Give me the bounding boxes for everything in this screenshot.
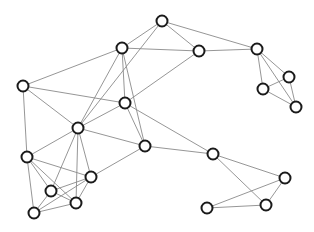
node-S (261, 200, 272, 211)
node-O (46, 186, 57, 197)
edge-N-Q (34, 177, 91, 213)
edge-A-C (162, 21, 199, 51)
edge-A-J (78, 21, 162, 128)
node-I (120, 98, 131, 109)
edge-J-K (78, 128, 145, 146)
edge-C-I (125, 51, 199, 103)
edge-C-D (199, 49, 257, 51)
node-T (202, 203, 213, 214)
node-K (140, 141, 151, 152)
node-N (86, 172, 97, 183)
edge-L-N (27, 157, 91, 177)
network-graph (0, 0, 314, 232)
node-Q (29, 208, 40, 219)
edge-K-M (145, 146, 213, 154)
node-G (291, 102, 302, 113)
node-B (117, 43, 128, 54)
edge-M-S (213, 154, 266, 205)
edge-H-J (23, 86, 78, 128)
edge-M-R (213, 154, 285, 178)
node-F (258, 84, 269, 95)
node-D (252, 44, 263, 55)
edge-J-L (27, 128, 78, 157)
node-H (18, 81, 29, 92)
edge-I-M (125, 103, 213, 154)
edge-K-N (91, 146, 145, 177)
edge-R-T (207, 178, 285, 208)
node-A (157, 16, 168, 27)
edge-H-I (23, 86, 125, 103)
edge-T-S (207, 205, 266, 208)
node-E (284, 72, 295, 83)
edge-J-O (51, 128, 78, 191)
edge-A-B (122, 21, 162, 48)
node-J (73, 123, 84, 134)
node-M (208, 149, 219, 160)
node-P (71, 198, 82, 209)
edge-B-H (23, 48, 122, 86)
edge-I-K (125, 103, 145, 146)
node-R (280, 173, 291, 184)
edge-J-P (76, 128, 78, 203)
edge-H-L (23, 86, 27, 157)
node-C (194, 46, 205, 57)
edge-J-N (78, 128, 91, 177)
node-L (22, 152, 33, 163)
edge-B-C (122, 48, 199, 51)
edge-A-D (162, 21, 257, 49)
